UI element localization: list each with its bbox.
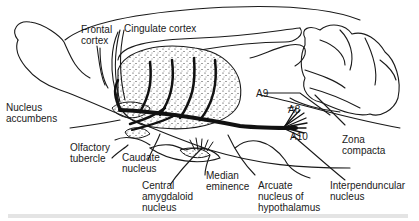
label-central-amygdaloid-nucleus: Central amygdaloid nucleus [142, 180, 193, 213]
label-caudate-nucleus: Caudate nucleus [122, 152, 160, 174]
figure-caption-cutoff [8, 214, 408, 218]
label-a9: A9 [256, 88, 268, 99]
label-nucleus-accumbens: Nucleus accumbens [6, 102, 57, 124]
label-cingulate-cortex: Cingulate cortex [124, 23, 196, 34]
label-median-eminence: Median eminence [206, 170, 249, 192]
label-a10: A10 [290, 131, 308, 142]
label-olfactory-tubercle: Olfactory tubercle [70, 142, 110, 164]
figure: Frontal cortex Cingulate cortex Nucleus … [0, 0, 419, 221]
label-a8: A8 [288, 104, 300, 115]
label-arcuate-nucleus: Arcuate nucleus of hypothalamus [258, 180, 320, 213]
label-frontal-cortex: Frontal cortex [81, 24, 112, 46]
label-interpeduncular-nucleus: Interpenduncular nucleus [330, 180, 405, 202]
label-zona-compacta: Zona compacta [342, 134, 385, 156]
